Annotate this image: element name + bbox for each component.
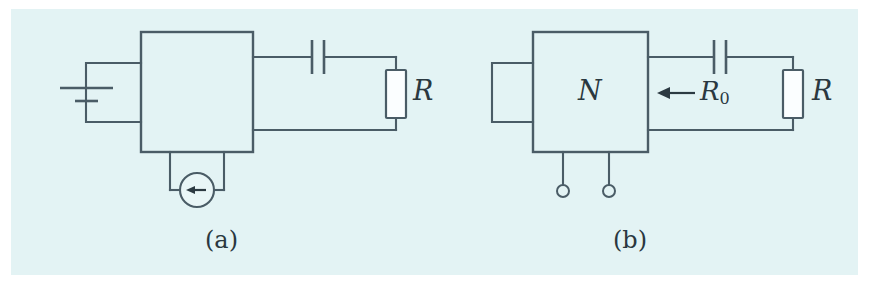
caption-panel-b: (b)	[613, 228, 647, 252]
resistor-b-label: R	[812, 77, 832, 104]
panel-a-circuit	[60, 32, 406, 207]
caption-panel-a: (a)	[205, 228, 238, 252]
current-source-icon	[180, 173, 214, 207]
capacitor-icon	[312, 40, 324, 74]
terminal-circle-right	[603, 185, 615, 197]
circuit-drawing-canvas	[0, 0, 869, 284]
panel-a-network-box	[141, 32, 253, 152]
resistor-a	[386, 70, 406, 118]
terminal-circle-left	[557, 185, 569, 197]
input-resistance-label: R0	[700, 78, 730, 107]
resistor-b	[783, 70, 803, 118]
panel-b-left-stub	[492, 63, 533, 122]
capacitor-icon-b	[714, 40, 726, 74]
panel-b-circuit	[492, 32, 803, 197]
figure-container: R N R0 R (a) (b)	[0, 0, 869, 284]
panel-b-terminals	[557, 152, 615, 197]
resistor-a-label: R	[413, 77, 433, 104]
input-resistance-base: R	[700, 76, 720, 106]
input-resistance-subscript: 0	[720, 89, 730, 108]
network-box-label: N	[578, 77, 602, 104]
input-resistance-arrow-icon	[657, 87, 695, 99]
panel-a-left-stub	[86, 63, 141, 122]
